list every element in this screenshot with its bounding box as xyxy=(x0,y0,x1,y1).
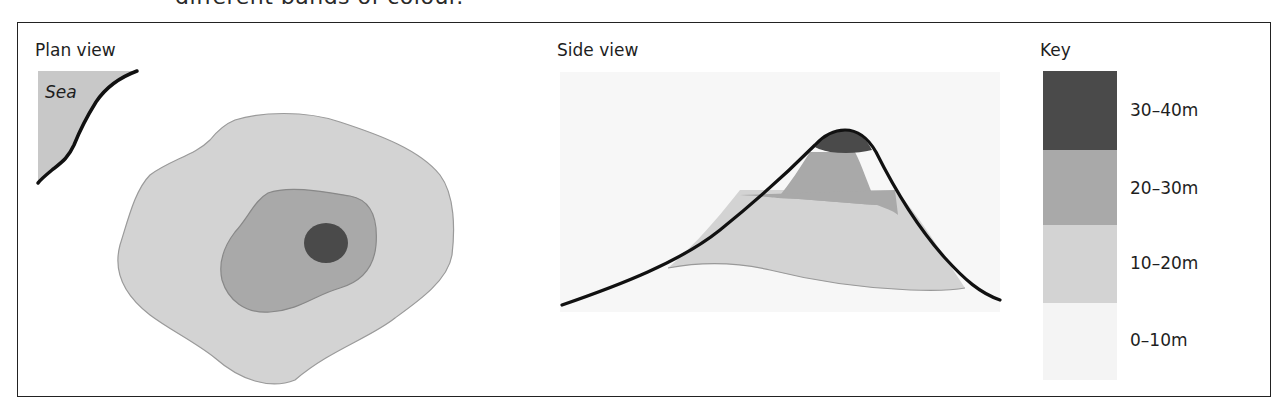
key-swatch-30-40m xyxy=(1043,71,1117,150)
key-swatch-0-10m xyxy=(1043,303,1117,380)
key-swatch-10-20m xyxy=(1043,225,1117,303)
plan-view-title: Plan view xyxy=(35,40,116,60)
sea-label: Sea xyxy=(45,82,77,102)
key-label-20-30m: 20–30m xyxy=(1130,178,1198,198)
key-label-10-20m: 10–20m xyxy=(1130,253,1198,273)
key-label-30-40m: 30–40m xyxy=(1130,100,1198,120)
contour-30-40m xyxy=(304,223,348,263)
key-title: Key xyxy=(1040,40,1071,60)
key-swatch-20-30m xyxy=(1043,150,1117,225)
side-view-title: Side view xyxy=(557,40,638,60)
key-label-0-10m: 0–10m xyxy=(1130,330,1188,350)
